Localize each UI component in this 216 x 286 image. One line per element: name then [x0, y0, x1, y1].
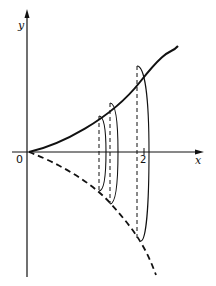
slice-1 [99, 116, 106, 191]
origin-label: 0 [16, 154, 23, 165]
x-axis-label: x [195, 155, 201, 166]
tick-label-2: 2 [140, 155, 146, 165]
y-axis [25, 9, 30, 277]
solid-of-revolution-diagram [0, 0, 216, 286]
upper-curve [29, 46, 178, 152]
slice-2 [110, 103, 118, 204]
y-axis-arrow-icon [25, 9, 30, 18]
y-axis-label: y [18, 20, 24, 31]
